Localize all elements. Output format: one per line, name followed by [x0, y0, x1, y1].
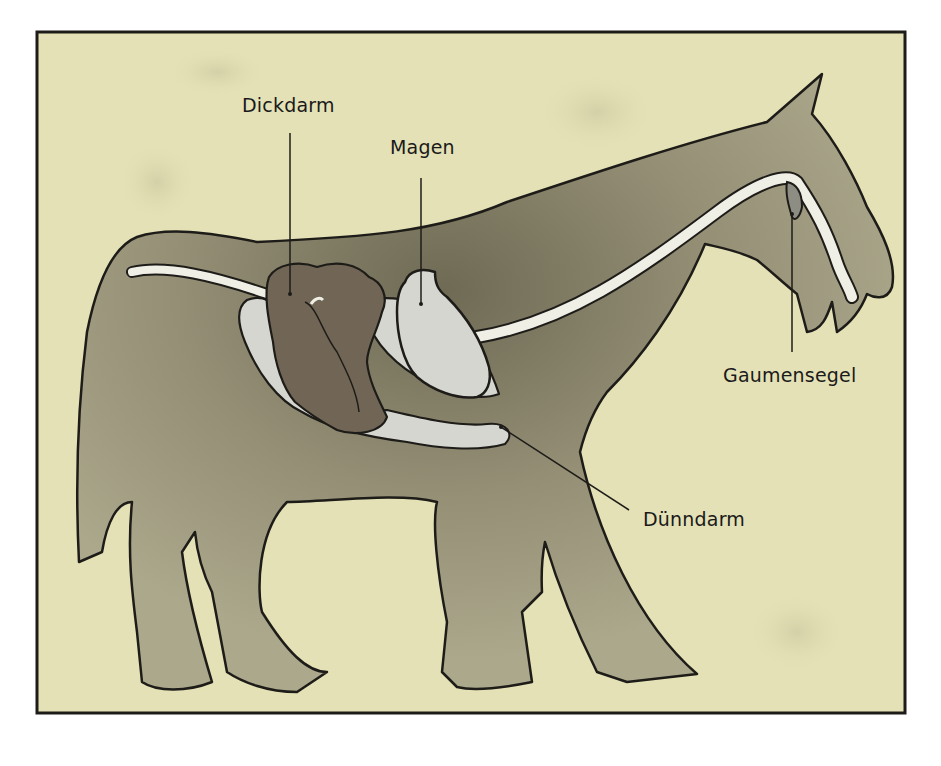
diagram-frame: Dickdarm Magen Dünndarm Gaumensegel	[37, 32, 905, 713]
label-duenndarm: Dünndarm	[643, 510, 745, 529]
label-gaumensegel: Gaumensegel	[723, 366, 856, 385]
label-magen: Magen	[390, 138, 455, 157]
label-dickdarm: Dickdarm	[242, 96, 335, 115]
